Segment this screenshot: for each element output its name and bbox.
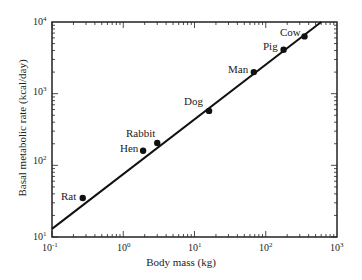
label-man: Man: [228, 63, 248, 75]
data-point-pig: [280, 47, 286, 53]
label-rabbit: Rabbit: [126, 127, 155, 139]
data-point-hen: [140, 148, 146, 154]
label-rat: Rat: [61, 190, 76, 202]
y-tick-10e3: 103: [33, 85, 47, 97]
x-tick-10e3: 103: [330, 241, 344, 253]
label-pig: Pig: [263, 40, 278, 52]
label-cow: Cow: [280, 26, 301, 38]
y-axis-label: Basal metabolic rate (kcal/day): [16, 48, 28, 208]
x-tick-10e0: 100: [117, 241, 131, 253]
data-point-rat: [80, 195, 86, 201]
x-tick-10e1: 101: [188, 241, 202, 253]
x-tick-10e-1: 10-1: [42, 241, 58, 253]
axis-ticks: [52, 22, 337, 237]
plot-frame: [52, 22, 337, 237]
data-point-dog: [206, 108, 212, 114]
y-tick-10e4: 104: [33, 15, 47, 27]
data-point-rabbit: [154, 140, 160, 146]
data-point-cow: [301, 33, 307, 39]
fit-line: [52, 22, 321, 229]
chart-canvas: [0, 0, 362, 280]
label-hen: Hen: [120, 142, 138, 154]
data-point-man: [251, 69, 257, 75]
x-tick-10e2: 102: [259, 241, 273, 253]
x-axis-label: Body mass (kg): [0, 256, 362, 268]
label-dog: Dog: [184, 95, 203, 107]
y-tick-10e2: 102: [33, 154, 47, 166]
